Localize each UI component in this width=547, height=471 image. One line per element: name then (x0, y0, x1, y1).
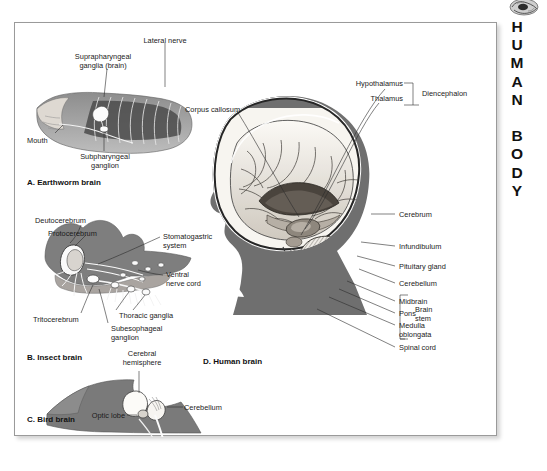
label-stomatogastric-system: Stomatogastric system (163, 232, 212, 250)
label-pituitary-gland: Pituitary gland (399, 262, 446, 271)
label-cerebellum-bird: Cerebellum (184, 403, 222, 412)
bird-illustration (47, 380, 201, 437)
human-illustration (203, 96, 385, 329)
label-infundibulum: Infundibulum (399, 242, 441, 251)
label-suprapharyngeal-ganglia: Suprapharyngeal ganglia (brain) (50, 52, 156, 70)
label-cerebral-hemisphere: Cerebral hemisphere (111, 349, 173, 367)
label-corpus-callosum: Corpus callosum (185, 105, 240, 114)
label-thalamus: Thalamus (333, 94, 403, 103)
diencephalon-bracket (413, 83, 419, 105)
figure-plate: Lateral nerve Suprapharyngeal ganglia (b… (14, 22, 497, 436)
insect-leader-lines (70, 225, 163, 323)
caption-earthworm-brain: A. Earthworm brain (27, 178, 101, 187)
caption-insect-brain: B. Insect brain (27, 353, 82, 362)
brain-icon (508, 0, 540, 18)
bird-leader-lines (127, 371, 183, 415)
label-hypothalamus: Hypothalamus (333, 79, 403, 88)
label-cerebrum: Cerebrum (399, 210, 432, 219)
label-spinal-cord: Spinal cord (399, 343, 436, 352)
caption-human-brain: D. Human brain (203, 357, 262, 366)
label-pons: Pons (399, 309, 416, 318)
label-ventral-nerve-cord: Ventral nerve cord (166, 270, 201, 288)
label-brain-stem: Brain stem (415, 305, 432, 323)
label-subpharyngeal-ganglion: Subpharyngeal ganglion (59, 152, 151, 170)
figure-page: HUMAN BODY (0, 0, 547, 471)
human-leader-lines (237, 89, 395, 347)
label-tritocerebrum: Tritocerebrum (33, 315, 79, 324)
label-lateral-nerve: Lateral nerve (121, 36, 209, 45)
label-diencephalon: Diencephalon (422, 89, 467, 98)
earthworm-illustration (37, 92, 192, 153)
running-head: HUMAN BODY (509, 18, 525, 200)
label-deutocerebrum: Deutocerebrum (35, 216, 86, 225)
label-thoracic-ganglia: Thoracic ganglia (119, 311, 173, 320)
label-subesophageal-ganglion: Subesophageal ganglion (111, 324, 162, 342)
caption-bird-brain: C. Bird brain (27, 415, 75, 424)
label-cerebellum-human: Cerebellum (399, 279, 437, 288)
label-protocerebrum: Protocerebrum (48, 229, 97, 238)
label-medulla-oblongata: Medulla oblongata (399, 321, 431, 339)
label-mouth: Mouth (27, 136, 48, 145)
